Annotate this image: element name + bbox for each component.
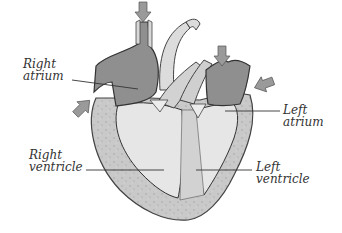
label-right-atrium: Right atrium — [23, 58, 64, 82]
label-right-ventricle: Right ventricle — [29, 149, 83, 173]
label-right-ventricle-line2: ventricle — [29, 161, 83, 173]
label-right-atrium-line2: atrium — [23, 70, 64, 82]
label-left-atrium: Left atrium — [283, 104, 324, 128]
label-left-ventricle: Left ventricle — [256, 161, 310, 185]
arrow-pulmonary-vein-side-icon — [252, 73, 276, 95]
heart-diagram: Right atrium Left atrium Right ventricle… — [0, 0, 342, 233]
label-left-atrium-line2: atrium — [283, 116, 324, 128]
arrow-superior-vena-cava-icon — [135, 2, 151, 22]
label-left-ventricle-line2: ventricle — [256, 173, 310, 185]
